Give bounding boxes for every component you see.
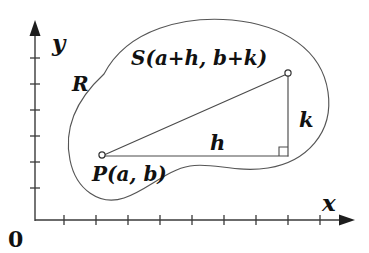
right-angle-marker [279,147,288,156]
x-axis-group: x [35,189,355,226]
x-axis-arrowhead [339,215,355,226]
side-label-h: h [210,130,225,155]
vertex-P-marker [99,152,105,158]
vertex-S-marker [285,70,291,76]
point-label-S: S(a+h, b+k) [131,46,267,70]
diagram-canvas: y x 0 R [0,0,369,253]
y-axis-arrowhead [30,20,41,36]
triangle-group [99,70,291,158]
side-label-k: k [299,107,314,132]
region-label-R: R [71,72,89,96]
x-axis-label: x [321,189,336,216]
point-label-P: P(a, b) [91,162,167,186]
y-axis-group: y [30,20,68,221]
diagram-svg: y x 0 R [0,0,369,253]
origin-label: 0 [8,226,23,252]
triangle-hypotenuse [104,74,287,155]
y-axis-label: y [51,29,67,56]
